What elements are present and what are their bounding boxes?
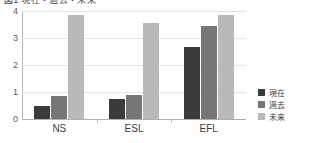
bar [184, 47, 200, 119]
bar [201, 26, 217, 119]
bar [143, 23, 159, 119]
bar-groups [22, 11, 246, 119]
y-tick-label: 4 [2, 6, 18, 16]
bar [109, 99, 125, 119]
chart-legend: 現在過去未来 [258, 86, 308, 122]
y-tick-label: 0 [2, 114, 18, 124]
bar [51, 96, 67, 119]
legend-swatch-icon [258, 89, 265, 96]
x-axis-separator [97, 119, 98, 123]
chart-title-strip: 図1 現在・過去・未来 [0, 0, 310, 5]
bar-group-ns [22, 11, 97, 119]
legend-swatch-icon [258, 113, 265, 120]
x-label-efl: EFL [171, 123, 246, 137]
legend-item-0[interactable]: 現在 [258, 86, 308, 98]
bar [34, 106, 50, 120]
chart-screenshot: 図1 現在・過去・未来 01234 NSESLEFL 現在過去未来 [0, 0, 310, 143]
y-axis-tick-labels: 01234 [0, 11, 18, 119]
y-tick-label: 3 [2, 33, 18, 43]
legend-item-1[interactable]: 過去 [258, 98, 308, 110]
legend-label: 過去 [269, 99, 285, 110]
y-tick-label: 1 [2, 87, 18, 97]
legend-item-2[interactable]: 未来 [258, 110, 308, 122]
x-axis-line [22, 119, 246, 120]
bar [126, 95, 142, 119]
x-label-esl: ESL [97, 123, 172, 137]
bar [68, 15, 84, 119]
bar-group-efl [171, 11, 246, 119]
y-tick-label: 2 [2, 60, 18, 70]
chart-title: 図1 現在・過去・未来 [4, 0, 96, 5]
bar [218, 15, 234, 119]
bar-group-esl [97, 11, 172, 119]
x-axis-category-labels: NSESLEFL [22, 123, 246, 137]
x-axis-separator [171, 119, 172, 123]
legend-label: 現在 [269, 87, 285, 98]
legend-label: 未来 [269, 111, 285, 122]
legend-swatch-icon [258, 101, 265, 108]
x-label-ns: NS [22, 123, 97, 137]
